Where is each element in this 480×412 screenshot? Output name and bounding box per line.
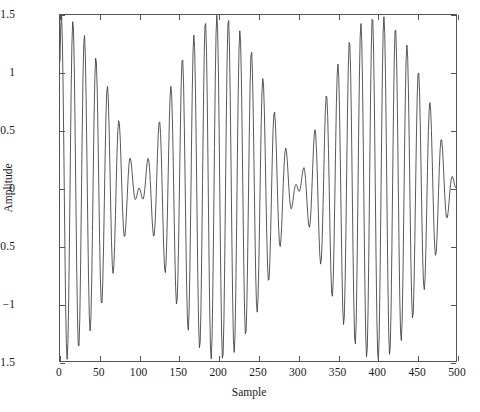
- x-axis-tick-label: 200: [196, 366, 240, 378]
- y-axis-tick-mark: [451, 247, 456, 248]
- y-axis-tick-mark: [451, 73, 456, 74]
- signal-waveform: [60, 15, 456, 361]
- x-axis-tick-mark: [339, 356, 340, 361]
- x-axis-tick-mark: [100, 15, 101, 20]
- x-axis-tick-mark: [60, 15, 61, 20]
- x-axis-tick-mark: [458, 356, 459, 361]
- x-axis-tick-label: 250: [236, 366, 280, 378]
- x-axis-tick-label: 100: [117, 366, 161, 378]
- x-axis-tick-mark: [378, 356, 379, 361]
- x-axis-tick-mark: [100, 356, 101, 361]
- x-axis-tick-label: 0: [37, 366, 81, 378]
- x-axis-tick-mark: [339, 15, 340, 20]
- y-axis-tick-mark: [60, 363, 65, 364]
- x-axis-tick-label: 500: [435, 366, 479, 378]
- y-axis-tick-mark: [451, 305, 456, 306]
- x-axis-tick-label: 400: [355, 366, 399, 378]
- y-axis-tick-mark: [451, 189, 456, 190]
- y-axis-tick-mark: [451, 363, 456, 364]
- y-axis-tick-mark: [60, 247, 65, 248]
- x-axis-tick-label: 450: [395, 366, 439, 378]
- y-axis-tick-mark: [60, 189, 65, 190]
- y-axis-tick-label: 0.5: [0, 124, 15, 136]
- x-axis-title-text: Sample: [232, 386, 267, 398]
- x-axis-tick-mark: [60, 356, 61, 361]
- x-axis-tick-mark: [378, 15, 379, 20]
- chart-figure: 1.510.50−0.5−1−1.5 050100150200250300350…: [0, 0, 480, 412]
- x-axis-tick-mark: [140, 15, 141, 20]
- x-axis-tick-mark: [418, 15, 419, 20]
- waveform-path: [60, 15, 456, 360]
- y-axis-title-text: Amplitude: [2, 163, 14, 212]
- y-axis-title: Amplitude: [2, 163, 14, 212]
- y-axis-tick-label: −0.5: [0, 240, 15, 252]
- x-axis-tick-mark: [299, 356, 300, 361]
- x-axis-tick-label: 150: [156, 366, 200, 378]
- y-axis-tick-label: −1.5: [0, 356, 15, 368]
- y-axis-tick-label: −1: [0, 298, 15, 310]
- x-axis-tick-mark: [140, 356, 141, 361]
- x-axis-tick-mark: [179, 15, 180, 20]
- x-axis-tick-mark: [179, 356, 180, 361]
- y-axis-tick-label: 1.5: [0, 8, 15, 20]
- x-axis-tick-label: 350: [316, 366, 360, 378]
- plot-area: [59, 14, 457, 362]
- y-axis-tick-mark: [451, 131, 456, 132]
- x-axis-tick-mark: [418, 356, 419, 361]
- y-axis-tick-mark: [60, 131, 65, 132]
- x-axis-tick-mark: [219, 15, 220, 20]
- x-axis-tick-mark: [259, 356, 260, 361]
- x-axis-tick-mark: [259, 15, 260, 20]
- y-axis-tick-mark: [60, 73, 65, 74]
- x-axis-tick-mark: [219, 356, 220, 361]
- y-axis-tick-label: 1: [0, 66, 15, 78]
- y-axis-tick-mark: [451, 15, 456, 16]
- x-axis-title: Sample: [0, 386, 480, 398]
- y-axis-tick-mark: [60, 305, 65, 306]
- x-axis-tick-label: 300: [276, 366, 320, 378]
- x-axis-tick-mark: [299, 15, 300, 20]
- x-axis-tick-mark: [458, 15, 459, 20]
- x-axis-tick-label: 50: [77, 366, 121, 378]
